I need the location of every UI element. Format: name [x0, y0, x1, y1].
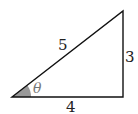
- right-triangle: [12, 11, 123, 97]
- hypotenuse-label: 5: [58, 36, 68, 54]
- adjacent-side-label: 4: [66, 98, 76, 114]
- opposite-side-label: 3: [125, 48, 135, 66]
- angle-theta-label: θ: [33, 80, 42, 96]
- triangle-diagram: 5 3 4 θ: [0, 0, 138, 114]
